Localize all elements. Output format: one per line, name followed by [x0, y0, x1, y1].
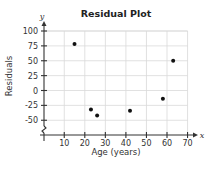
- y-tick-label: 50: [28, 57, 38, 66]
- y-tick-label: -25: [25, 101, 38, 110]
- x-axis-variable: x: [200, 131, 205, 140]
- x-tick-label: 60: [162, 139, 172, 148]
- y-tick-label: 75: [28, 42, 38, 51]
- y-axis-break-icon: [42, 126, 46, 133]
- y-axis-arrow-icon: [42, 21, 47, 26]
- y-ticks: 1007550250-25-50: [23, 27, 47, 125]
- y-tick-label: 100: [23, 27, 38, 36]
- x-axis-arrow-icon: [193, 133, 198, 138]
- x-axis-label: Age (years): [91, 147, 140, 157]
- data-point: [128, 109, 132, 113]
- data-point: [161, 97, 165, 101]
- data-points: [73, 42, 176, 117]
- y-tick-label: -50: [25, 116, 38, 125]
- y-tick-label: 0: [33, 87, 38, 96]
- y-axis-label: Residuals: [4, 55, 14, 96]
- residual-plot: Residual Plot y x 1007550250-25-50 10203…: [0, 0, 210, 169]
- gridlines: [44, 31, 188, 135]
- chart-title: Residual Plot: [81, 8, 152, 19]
- data-point: [171, 59, 175, 63]
- data-point: [95, 113, 99, 117]
- y-tick-label: 25: [28, 72, 38, 81]
- data-point: [73, 42, 77, 46]
- data-point: [89, 108, 93, 112]
- x-tick-label: 20: [80, 139, 90, 148]
- x-tick-label: 10: [59, 139, 69, 148]
- x-tick-label: 70: [182, 139, 192, 148]
- y-axis-variable: y: [39, 12, 45, 21]
- x-tick-label: 50: [141, 139, 151, 148]
- x-ticks: 10203040506070: [59, 132, 192, 148]
